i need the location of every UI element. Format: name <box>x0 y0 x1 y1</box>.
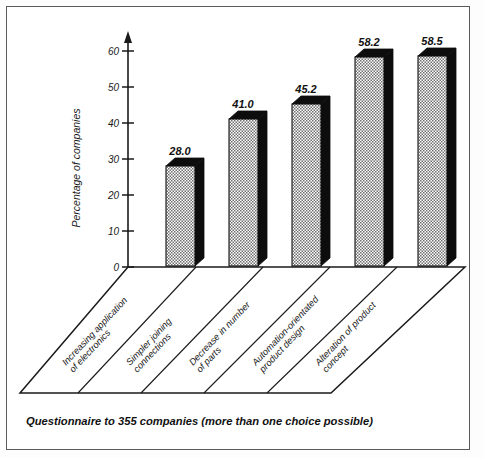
figure-root: 0 10 20 30 40 50 60 Percentage of compan… <box>0 0 484 458</box>
y-tick-label-10: 10 <box>108 226 120 237</box>
bar-value-label-4: 58.2 <box>358 36 379 48</box>
bar-side-face-2 <box>258 111 267 266</box>
bar-group-2[interactable]: 41.0 <box>229 98 267 266</box>
bar-front-face-2 <box>229 119 258 266</box>
y-axis-arrow-icon <box>124 31 132 43</box>
bar-value-label-5: 58.5 <box>421 35 443 47</box>
y-tick-label-30: 30 <box>108 154 120 165</box>
category-labels: Increasing application of electronics Si… <box>60 294 385 375</box>
bar-front-face-3 <box>292 104 321 266</box>
category-label-3: Decrease in number of parts <box>187 299 260 374</box>
y-axis-title: Percentage of companies <box>70 108 82 228</box>
y-tick-label-40: 40 <box>108 118 120 129</box>
ground-plane <box>20 267 465 393</box>
bar-value-label-1: 28.0 <box>168 145 191 157</box>
category-label-4-line-1: Automation-orientated <box>250 294 321 369</box>
y-axis: 0 10 20 30 40 50 60 Percentage of compan… <box>70 31 134 273</box>
bar-group-3[interactable]: 45.2 <box>292 83 330 266</box>
y-tick-label-0: 0 <box>113 262 119 273</box>
bar-group-4[interactable]: 58.2 <box>355 36 393 266</box>
y-tick-label-20: 20 <box>107 190 120 201</box>
category-label-3-line-1: Decrease in number <box>187 299 253 367</box>
bar-chart: 0 10 20 30 40 50 60 Percentage of compan… <box>0 0 484 458</box>
y-tick-label-50: 50 <box>108 82 120 93</box>
bar-front-face-1 <box>166 166 195 266</box>
category-label-2: Simpler joining connections <box>124 316 181 375</box>
bar-side-face-4 <box>384 49 393 266</box>
bar-side-face-1 <box>195 158 204 266</box>
bar-front-face-4 <box>355 57 384 266</box>
bar-value-label-3: 45.2 <box>294 83 316 95</box>
bar-group-1[interactable]: 28.0 <box>166 145 204 266</box>
chart-caption: Questionnaire to 355 companies (more tha… <box>26 415 373 427</box>
category-label-5: Alteration of product concept <box>313 300 386 375</box>
bar-front-face-5 <box>418 56 447 266</box>
bar-side-face-5 <box>447 48 456 266</box>
bar-value-label-2: 41.0 <box>231 98 254 110</box>
y-tick-label-60: 60 <box>108 46 120 57</box>
bar-side-face-3 <box>321 96 330 266</box>
bar-group-5[interactable]: 58.5 <box>418 35 456 266</box>
